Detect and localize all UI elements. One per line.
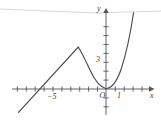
scan-artifact-line	[0, 9, 161, 13]
y-tick-label-3: 3	[96, 56, 100, 64]
graph-canvas	[0, 0, 161, 123]
x-tick-label-1: 1	[117, 92, 121, 100]
y-axis-label: y	[97, 5, 101, 13]
x-axis-label: x	[150, 92, 154, 100]
x-tick-label-minus-5: −5	[47, 93, 56, 101]
y-axis-arrowhead	[103, 8, 108, 13]
origin-label: O	[100, 92, 106, 100]
graph-figure: y x O −5 1 3	[0, 0, 161, 123]
